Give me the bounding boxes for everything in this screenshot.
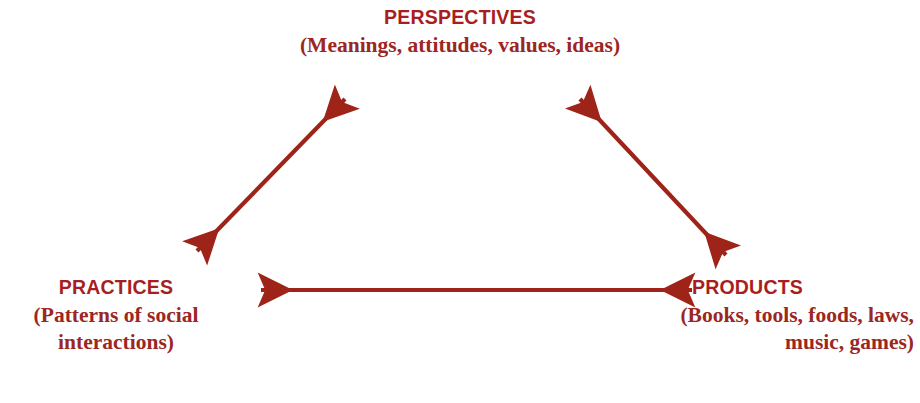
node-products-description-line-2: music, games) bbox=[575, 329, 914, 357]
node-perspectives-title: PERSPECTIVES bbox=[218, 5, 702, 29]
node-products-description-line-1: (Books, tools, foods, laws, bbox=[575, 302, 914, 330]
connector-practices-perspectives bbox=[197, 99, 345, 251]
connector-perspectives-products bbox=[580, 99, 726, 255]
node-practices-description-line-2: interactions) bbox=[0, 329, 232, 357]
node-products-description: (Books, tools, foods, laws, music, games… bbox=[575, 302, 920, 357]
node-products-title: PRODUCTS bbox=[587, 275, 908, 299]
node-practices: PRACTICES (Patterns of social interactio… bbox=[0, 275, 232, 357]
node-practices-title: PRACTICES bbox=[8, 275, 224, 299]
node-products: PRODUCTS (Books, tools, foods, laws, mus… bbox=[575, 275, 920, 357]
node-practices-description-line-1: (Patterns of social bbox=[0, 302, 232, 330]
node-perspectives: PERSPECTIVES (Meanings, attitudes, value… bbox=[200, 5, 720, 59]
node-perspectives-description: (Meanings, attitudes, values, ideas) bbox=[200, 32, 720, 60]
node-practices-description: (Patterns of social interactions) bbox=[0, 302, 232, 357]
diagram-canvas: PERSPECTIVES (Meanings, attitudes, value… bbox=[0, 0, 920, 403]
